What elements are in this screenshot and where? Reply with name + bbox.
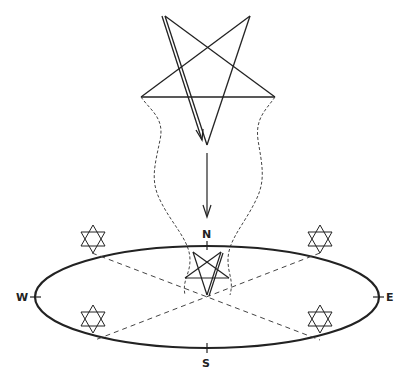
diagonal-lines bbox=[92, 253, 320, 340]
east-label: E bbox=[386, 291, 394, 304]
hexagram-se-icon bbox=[308, 305, 332, 333]
descent-path bbox=[141, 97, 275, 295]
west-label: W bbox=[16, 291, 28, 304]
small-pentagram-icon bbox=[185, 252, 229, 296]
down-arrow-icon bbox=[203, 153, 211, 217]
large-pentagram-icon bbox=[141, 16, 275, 145]
north-label: N bbox=[202, 228, 211, 241]
south-label: S bbox=[202, 357, 210, 370]
ritual-diagram: N S W E bbox=[0, 0, 407, 384]
hexagram-ne-icon bbox=[308, 225, 332, 253]
hexagram-sw-icon bbox=[81, 305, 105, 333]
hexagram-nw-icon bbox=[81, 225, 105, 253]
